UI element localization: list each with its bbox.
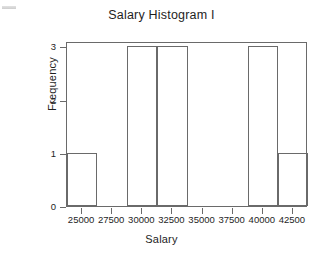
histogram-bar (248, 46, 278, 206)
histogram-bar (157, 46, 187, 206)
x-axis-title: Salary (0, 233, 323, 245)
y-tick-label: 1 (32, 149, 56, 159)
histogram-figure: Salary Histogram I Frequency 0123 250002… (0, 0, 323, 261)
bars-container (67, 43, 306, 206)
y-tick-label: 3 (32, 42, 56, 52)
y-tick (60, 207, 66, 208)
y-tick-label: 2 (32, 96, 56, 106)
chart-title: Salary Histogram I (0, 8, 323, 22)
histogram-bar (278, 153, 308, 206)
x-tick-label: 42500 (270, 215, 314, 225)
y-tick-label: 0 (32, 202, 56, 212)
histogram-bar (127, 46, 157, 206)
plot-area (66, 42, 307, 207)
histogram-bar (67, 153, 97, 206)
